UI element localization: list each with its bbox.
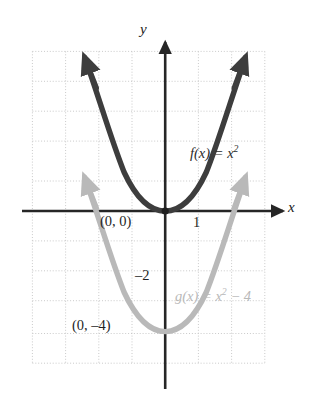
curve-g-arrow-right	[234, 177, 246, 208]
function-label-g: g(x) = x2 − 4	[175, 287, 251, 303]
function-label-f: f(x) = x2	[190, 144, 239, 160]
curve-f-arrow-left	[85, 57, 97, 88]
y-axis-label: y	[140, 22, 147, 37]
y-tick-label-negative-2: –2	[135, 268, 150, 283]
curve-f-arrow-right	[234, 57, 246, 88]
point-label-origin: (0, 0)	[100, 214, 131, 229]
function-label-f-exponent: 2	[234, 143, 239, 154]
function-label-f-arg: (x) = x	[194, 145, 234, 161]
x-axis-label: x	[288, 200, 295, 215]
function-label-g-arg: (x) = x	[182, 288, 222, 304]
coordinate-plane-svg	[0, 0, 311, 399]
graph-figure: y x f(x) = x2 g(x) = x2 − 4 (0, 0) (0, –…	[0, 0, 311, 399]
point-label-vertex-g: (0, –4)	[72, 318, 111, 333]
curve-g-arrow-left	[85, 177, 97, 208]
point-origin	[162, 207, 169, 214]
x-tick-label-1: 1	[193, 215, 200, 230]
function-label-g-tail: − 4	[227, 288, 251, 304]
